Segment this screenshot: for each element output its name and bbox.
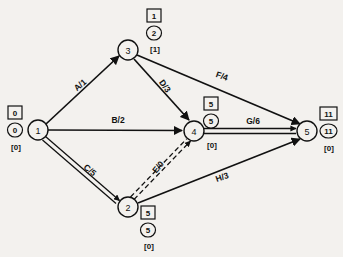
node-4-earliest: 5 <box>209 100 214 109</box>
diagram-canvas: A/1 B/2 C/5 D/3 E/0 <box>0 0 343 257</box>
node-5-latest: 11 <box>324 127 333 136</box>
node-3-earliest: 1 <box>152 12 157 21</box>
node-2-earliest: 5 <box>146 209 151 218</box>
node-1[interactable]: 1 <box>28 120 48 140</box>
edge-C[interactable]: C/5 <box>43 137 120 204</box>
edge-A[interactable]: A/1 <box>46 56 119 124</box>
node-4[interactable]: 4 <box>184 121 204 141</box>
node-5-label: 5 <box>304 127 309 137</box>
node-1-earliest: 0 <box>13 109 18 118</box>
edge-label-F: F/4 <box>215 69 230 83</box>
edge-label-A: A/1 <box>72 77 89 93</box>
network-diagram: A/1 B/2 C/5 D/3 E/0 <box>0 0 343 257</box>
node-4-label: 4 <box>191 127 196 137</box>
node-1-latest: 0 <box>13 126 18 135</box>
node-2-tags: 5 5 [0] <box>141 206 156 251</box>
node-5-tags: 11 11 [0] <box>320 107 337 153</box>
edges-group: A/1 B/2 C/5 D/3 E/0 <box>43 55 301 204</box>
node-1-tags: 0 0 [0] <box>8 106 23 152</box>
node-3-tags: 1 2 [1] <box>147 9 162 54</box>
node-3-slack: [1] <box>150 45 160 54</box>
node-2-label: 2 <box>125 203 130 213</box>
node-2[interactable]: 2 <box>118 197 138 217</box>
node-3[interactable]: 3 <box>118 40 138 60</box>
edge-label-B: B/2 <box>111 115 125 125</box>
node-5-slack: [0] <box>324 144 334 153</box>
node-1-slack: [0] <box>11 143 21 152</box>
node-5-earliest: 11 <box>324 110 333 119</box>
node-1-label: 1 <box>35 126 40 136</box>
edge-label-D: D/3 <box>157 78 173 95</box>
node-5[interactable]: 5 <box>297 121 317 141</box>
node-3-label: 3 <box>125 46 130 56</box>
edge-E[interactable]: E/0 <box>131 139 191 200</box>
edge-label-E: E/0 <box>150 159 166 175</box>
node-2-slack: [0] <box>144 242 154 251</box>
node-2-latest: 5 <box>146 226 151 235</box>
node-4-latest: 5 <box>209 117 214 126</box>
edge-D[interactable]: D/3 <box>134 59 189 120</box>
edge-label-G: G/6 <box>246 116 260 126</box>
node-4-slack: [0] <box>207 141 217 150</box>
node-4-tags: 5 5 [0] <box>204 97 219 150</box>
edge-B[interactable]: B/2 <box>48 115 182 131</box>
node-3-latest: 2 <box>152 29 157 38</box>
